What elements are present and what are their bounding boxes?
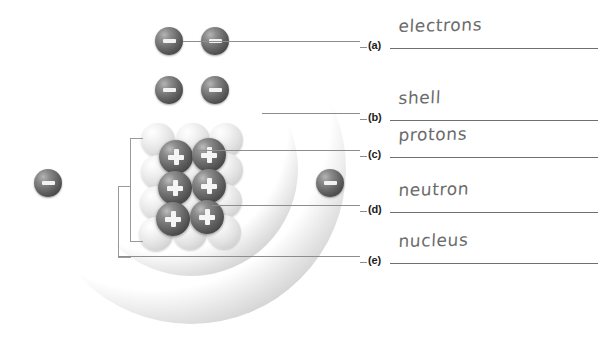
electron-sphere <box>155 27 183 55</box>
answer-row-e: (e) nucleus <box>360 241 608 275</box>
answer-line-a <box>390 48 598 49</box>
proton-sphere <box>159 140 193 174</box>
answer-row-d: (d) neutron <box>360 190 608 224</box>
minus-icon <box>209 88 222 92</box>
minus-icon <box>42 181 55 185</box>
leader-tick-d <box>360 211 367 212</box>
proton-sphere <box>158 171 192 205</box>
answer-letter-a: (a) <box>368 39 381 51</box>
leader-line-c <box>196 150 360 151</box>
answer-letter-d: (d) <box>368 203 381 215</box>
leader-tick-b <box>360 119 367 120</box>
answer-text-a[interactable]: electrons <box>398 14 483 36</box>
electron-sphere <box>201 76 229 104</box>
minus-icon <box>324 181 337 185</box>
proton-neutron-bracket <box>130 138 143 242</box>
plus-icon <box>167 180 183 196</box>
leader-line-b <box>262 113 360 114</box>
leader-line-d <box>212 205 360 206</box>
minus-icon <box>163 88 176 92</box>
answer-text-b[interactable]: shell <box>398 87 442 108</box>
answer-text-d[interactable]: neutron <box>398 178 470 200</box>
leader-line-a <box>183 41 360 42</box>
leader-tick-a <box>360 47 367 48</box>
answer-letter-e: (e) <box>368 254 381 266</box>
leader-tick-e <box>360 262 367 263</box>
leader-tick-c <box>360 156 367 157</box>
worksheet-page: (a) electrons (b) shell (c) protons (d) … <box>0 0 608 345</box>
nucleus-bracket <box>118 186 131 258</box>
electron-sphere <box>316 169 344 197</box>
answer-line-e <box>390 263 598 264</box>
electron-sphere <box>34 169 62 197</box>
answer-line-c <box>390 157 598 158</box>
answer-row-c: (c) protons <box>360 135 608 169</box>
plus-icon <box>165 211 181 227</box>
plus-icon <box>199 209 215 225</box>
proton-sphere <box>156 202 190 236</box>
answer-letter-b: (b) <box>368 111 381 123</box>
atom-diagram <box>0 0 360 345</box>
plus-icon <box>168 149 184 165</box>
answer-panel: (a) electrons (b) shell (c) protons (d) … <box>360 0 608 345</box>
minus-icon <box>163 39 176 43</box>
electron-sphere <box>155 76 183 104</box>
answer-row-a: (a) electrons <box>360 26 608 60</box>
proton-sphere <box>192 169 226 203</box>
leader-line-e <box>118 256 360 257</box>
answer-text-e[interactable]: nucleus <box>398 230 469 251</box>
answer-letter-c: (c) <box>368 148 381 160</box>
answer-line-d <box>390 212 598 213</box>
answer-row-b: (b) shell <box>360 98 608 132</box>
proton-sphere <box>192 138 226 172</box>
plus-icon <box>201 178 217 194</box>
answer-text-c[interactable]: protons <box>398 124 468 145</box>
answer-line-b <box>390 120 598 121</box>
